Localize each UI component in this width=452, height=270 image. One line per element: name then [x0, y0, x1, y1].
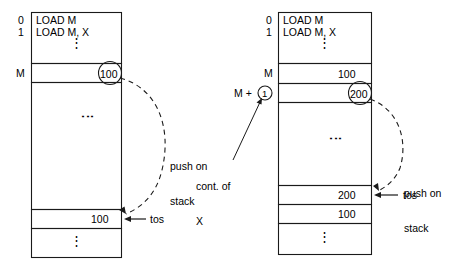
- left-middle-dots-glyph: ⋮: [81, 110, 96, 125]
- right-stack-second-row: [279, 205, 372, 224]
- cont-of-x-line1: cont. of: [196, 181, 230, 193]
- cont-of-x-label: cont. of X: [196, 158, 230, 250]
- left-instruction-0: LOAD M: [36, 14, 76, 26]
- left-memory-m-value: 100: [100, 68, 118, 80]
- left-address-m: M: [16, 67, 25, 79]
- right-stack-top-value: 200: [338, 189, 356, 201]
- right-push-on-stack-label: push on stack: [404, 165, 441, 257]
- right-address-0: 0: [266, 14, 272, 26]
- right-memory-m-value: 100: [338, 68, 356, 80]
- cont-of-x-line2: X: [196, 216, 230, 228]
- cont-of-x-leader: [233, 100, 261, 160]
- right-stack-top-row: [279, 186, 372, 205]
- right-memory-m-row: [279, 64, 372, 84]
- right-address-m: M: [264, 67, 273, 79]
- right-push-on-stack-line2: stack: [404, 223, 441, 235]
- left-tos-value: 100: [91, 213, 109, 225]
- right-bottom-dots: ⋮: [318, 231, 331, 243]
- right-push-arrowhead: [373, 183, 379, 191]
- left-instruction-dots: ⋮: [70, 37, 83, 49]
- figure-canvas: 0 1 M LOAD M LOAD M, X ⋮ 100 ⋮ 100 tos ⋮…: [0, 0, 452, 270]
- left-tos-arrowhead: [124, 216, 131, 222]
- right-stack-second-value: 100: [338, 208, 356, 220]
- right-push-arc: [370, 99, 403, 190]
- right-address-1: 1: [266, 26, 272, 38]
- left-bottom-dots: ⋮: [70, 235, 83, 247]
- right-middle-dots-glyph: ⋮: [329, 132, 344, 147]
- right-middle-dots: ⋮: [318, 110, 354, 147]
- right-instruction-0: LOAD M: [283, 14, 323, 26]
- left-middle-dots: ⋮: [70, 88, 106, 125]
- right-address-m-plus: M +: [234, 87, 252, 99]
- left-push-arrowhead: [119, 207, 126, 215]
- left-address-1: 1: [18, 26, 24, 38]
- right-memory-m-plus-value: 200: [350, 88, 368, 100]
- right-instruction-dots: ⋮: [318, 37, 331, 49]
- right-address-m-plus-circled-one: 1: [262, 88, 267, 100]
- right-push-on-stack-line1: push on: [404, 188, 441, 200]
- right-tos-arrowhead: [374, 192, 381, 198]
- left-tos-label: tos: [150, 213, 164, 225]
- left-push-arc: [120, 78, 165, 214]
- left-address-0: 0: [18, 14, 24, 26]
